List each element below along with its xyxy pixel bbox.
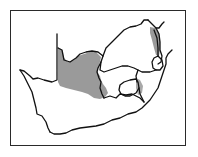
distribution-map: Southern Africa — [0, 0, 198, 157]
map-canvas — [0, 0, 198, 157]
